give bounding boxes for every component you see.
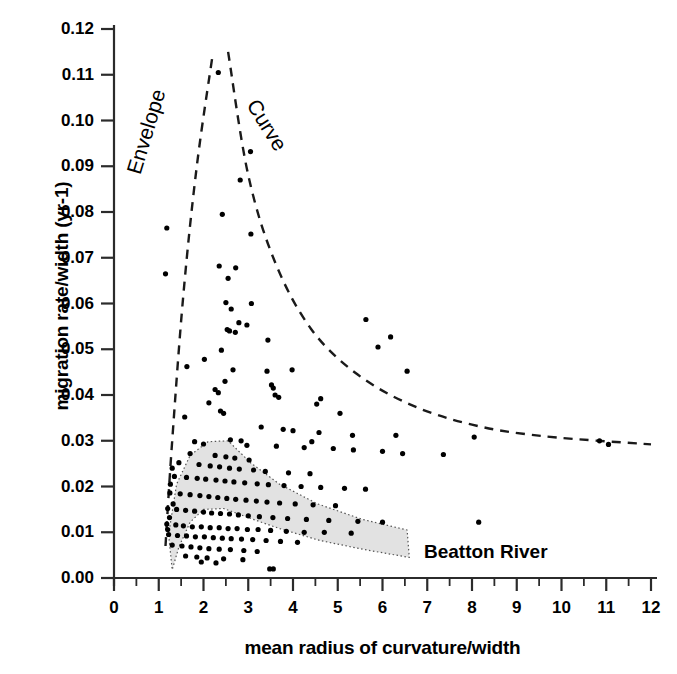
y-tick-label: 0.08 bbox=[32, 202, 94, 222]
x-tick-label: 4 bbox=[273, 598, 313, 618]
x-tick-label: 1 bbox=[139, 598, 179, 618]
y-tick-label: 0.12 bbox=[32, 19, 94, 39]
y-tick-label: 0.04 bbox=[32, 385, 94, 405]
x-tick-label: 5 bbox=[318, 598, 358, 618]
y-tick-label: 0.05 bbox=[32, 339, 94, 359]
figure-scatter-plot: migration rate/width (yr-1) mean radius … bbox=[0, 0, 677, 674]
x-tick-label: 10 bbox=[542, 598, 582, 618]
x-tick-label: 9 bbox=[497, 598, 537, 618]
y-tick-label: 0.00 bbox=[32, 568, 94, 588]
x-tick-label: 12 bbox=[631, 598, 671, 618]
x-tick-label: 8 bbox=[452, 598, 492, 618]
x-tick-label: 0 bbox=[94, 598, 134, 618]
beatton-river-label: Beatton River bbox=[424, 541, 548, 563]
y-tick-label: 0.01 bbox=[32, 522, 94, 542]
y-tick-label: 0.09 bbox=[32, 156, 94, 176]
x-tick-label: 11 bbox=[586, 598, 626, 618]
x-tick-label: 3 bbox=[228, 598, 268, 618]
y-tick-label: 0.03 bbox=[32, 431, 94, 451]
y-tick-label: 0.10 bbox=[32, 111, 94, 131]
y-tick-label: 0.06 bbox=[32, 294, 94, 314]
y-tick-label: 0.02 bbox=[32, 477, 94, 497]
y-tick-label: 0.11 bbox=[32, 65, 94, 85]
y-tick-label: 0.07 bbox=[32, 248, 94, 268]
x-tick-label: 7 bbox=[407, 598, 447, 618]
x-tick-label: 6 bbox=[363, 598, 403, 618]
beatton-river-region bbox=[169, 441, 410, 570]
x-tick-label: 2 bbox=[184, 598, 224, 618]
plot-canvas bbox=[0, 0, 677, 674]
x-axis-label: mean radius of curvature/width bbox=[114, 637, 651, 659]
